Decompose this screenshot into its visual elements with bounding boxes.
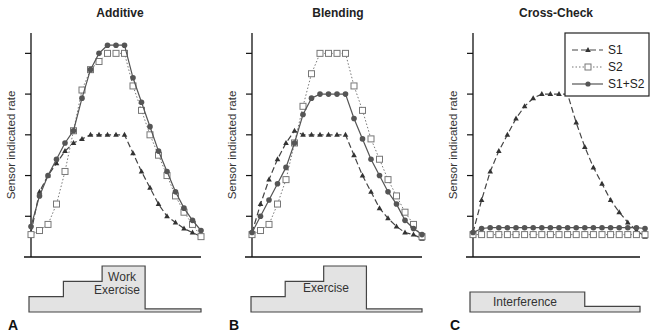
- data-point-circle: [249, 230, 255, 236]
- series-s1: [28, 132, 204, 239]
- legend-label: S2: [608, 60, 623, 74]
- data-point-square: [283, 177, 289, 183]
- data-point-square: [522, 232, 528, 238]
- data-point-circle: [539, 225, 545, 231]
- data-point-circle: [634, 225, 640, 231]
- data-point-circle: [522, 225, 528, 231]
- data-point-circle: [54, 156, 60, 162]
- data-point-circle: [113, 42, 119, 48]
- data-point-triangle: [599, 181, 605, 186]
- data-point-square: [582, 232, 588, 238]
- data-point-triangle: [173, 219, 179, 224]
- data-point-square: [113, 50, 119, 56]
- data-point-square: [45, 221, 51, 227]
- data-point-circle: [351, 116, 357, 122]
- data-point-circle: [377, 173, 383, 179]
- series-line: [252, 53, 422, 236]
- data-point-circle: [530, 225, 536, 231]
- data-point-triangle: [343, 132, 349, 137]
- data-point-circle: [130, 75, 136, 81]
- data-point-circle: [582, 225, 588, 231]
- data-point-circle: [71, 128, 77, 134]
- data-point-circle: [96, 51, 102, 57]
- data-point-circle: [88, 67, 94, 73]
- data-point-triangle: [496, 148, 502, 153]
- data-point-circle: [164, 169, 170, 175]
- series-s2: [470, 232, 648, 238]
- data-point-square: [608, 232, 614, 238]
- data-point-circle: [309, 95, 315, 101]
- data-point-square: [385, 177, 391, 183]
- stimulus-label: Exercise: [94, 283, 140, 297]
- data-point-circle: [470, 230, 476, 236]
- y-axis-label: Sensor indicated rate: [5, 91, 17, 200]
- data-point-square: [539, 232, 545, 238]
- data-point-triangle: [130, 150, 136, 155]
- series-line: [252, 94, 422, 235]
- panel-c: Cross-CheckSensor indicated rateInterfer…: [447, 6, 649, 333]
- data-point-circle: [258, 213, 264, 219]
- data-point-triangle: [368, 189, 374, 194]
- series-line: [473, 94, 645, 237]
- series-s2: [28, 50, 204, 239]
- data-point-triangle: [122, 132, 128, 137]
- data-point-circle: [334, 91, 340, 97]
- series-line: [31, 53, 201, 236]
- data-point-triangle: [377, 205, 383, 210]
- data-point-circle: [565, 225, 571, 231]
- data-point-circle: [62, 140, 68, 146]
- data-point-triangle: [156, 201, 162, 206]
- panel-letter: C: [450, 317, 460, 333]
- data-point-square: [37, 228, 43, 234]
- data-point-square: [479, 232, 485, 238]
- data-point-circle: [283, 165, 289, 171]
- data-point-square: [266, 221, 272, 227]
- data-point-square: [625, 232, 631, 238]
- data-point-square: [504, 232, 510, 238]
- data-point-square: [351, 83, 357, 89]
- data-point-circle: [122, 42, 128, 48]
- data-point-triangle: [292, 128, 298, 133]
- data-point-square: [54, 201, 60, 207]
- data-point-square: [275, 201, 281, 207]
- panel-b: BlendingSensor indicated rateExerciseB: [226, 6, 425, 333]
- data-point-circle: [139, 99, 145, 105]
- panel-a: AdditiveSensor indicated rateWorkExercis…: [5, 6, 204, 333]
- data-point-circle: [28, 224, 34, 230]
- data-point-circle: [394, 201, 400, 207]
- data-point-triangle: [275, 156, 281, 161]
- panel-letter: B: [229, 317, 239, 333]
- data-point-circle: [300, 112, 306, 118]
- data-point-circle: [79, 95, 85, 101]
- y-axis-label: Sensor indicated rate: [226, 91, 238, 200]
- data-point-square: [547, 232, 553, 238]
- panel-letter: A: [8, 317, 18, 333]
- data-point-circle: [326, 91, 332, 97]
- data-point-square: [642, 232, 648, 238]
- data-point-circle: [147, 124, 153, 130]
- data-point-circle: [599, 225, 605, 231]
- data-point-circle: [402, 218, 408, 224]
- stimulus-label: Exercise: [303, 281, 349, 295]
- figure: AdditiveSensor indicated rateWorkExercis…: [0, 0, 652, 336]
- data-point-square: [377, 156, 383, 162]
- data-point-square: [300, 103, 306, 109]
- data-point-square: [360, 107, 366, 113]
- data-point-triangle: [530, 95, 536, 100]
- data-point-circle: [368, 156, 374, 162]
- data-point-square: [326, 50, 332, 56]
- data-point-square: [573, 232, 579, 238]
- data-point-square: [368, 136, 374, 142]
- data-point-circle: [292, 140, 298, 146]
- data-point-circle: [591, 225, 597, 231]
- panel-title: Additive: [96, 6, 144, 20]
- data-point-triangle: [539, 91, 545, 96]
- data-point-square: [317, 50, 323, 56]
- data-point-square: [28, 232, 34, 238]
- data-point-triangle: [505, 132, 511, 137]
- data-point-square: [198, 234, 204, 240]
- data-point-circle: [411, 226, 417, 232]
- data-point-circle: [317, 91, 323, 97]
- panel-title: Cross-Check: [519, 6, 593, 20]
- data-point-circle: [419, 232, 425, 238]
